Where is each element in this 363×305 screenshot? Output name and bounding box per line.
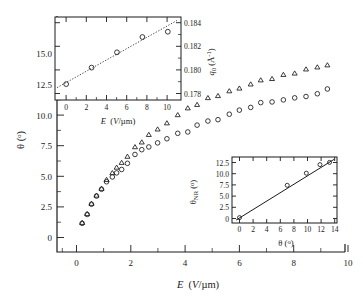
data-point-circle xyxy=(248,105,253,110)
inset-br-ytick-3: 7.5 xyxy=(220,181,230,190)
inset-br-ytick-1: 2.5 xyxy=(220,203,230,212)
data-point-triangle xyxy=(304,67,309,71)
main-ytick-0: 0 xyxy=(48,233,53,243)
data-point-triangle xyxy=(139,140,144,144)
inset-br-xtick-5: 10 xyxy=(304,225,312,234)
data-point-triangle xyxy=(125,154,130,158)
main-xtick-5: 10 xyxy=(344,258,354,268)
data-point-circle xyxy=(165,136,170,141)
data-point-circle xyxy=(114,171,119,176)
data-point-triangle xyxy=(132,145,137,149)
data-point-circle xyxy=(237,108,242,113)
data-point-triangle xyxy=(227,89,232,93)
main-xtick-4: 8 xyxy=(291,258,296,268)
inset-br-xtick-0: 0 xyxy=(238,225,242,234)
data-point-triangle xyxy=(146,132,151,136)
inset-tl-xtick-1: 2 xyxy=(84,103,88,112)
inset-tl-xtick-4: 8 xyxy=(145,103,149,112)
data-point-circle xyxy=(139,147,144,152)
inset-tl-ytick-0: 0.178 xyxy=(184,90,201,99)
main-ytick-1: 2.5 xyxy=(41,202,53,212)
inset-br-ytick-4: 10.0 xyxy=(216,170,229,179)
inset-tl-x-ticklabels: 0 2 4 6 8 10 xyxy=(64,103,171,112)
data-point-circle xyxy=(325,87,330,92)
data-point-triangle xyxy=(114,165,119,169)
main-ytick-2: 5.0 xyxy=(41,172,53,182)
data-point-triangle xyxy=(215,93,220,97)
data-point-triangle xyxy=(270,76,275,80)
inset-br-xtick-4: 8 xyxy=(292,225,296,234)
inset-br-ytick-0: 0 xyxy=(225,215,229,224)
main-y-ticklabels: 0 2.5 5.0 7.5 10.0 12.5 15.0 xyxy=(36,49,52,243)
inset-tl-xaxis-label: E (V/µm) xyxy=(100,116,136,126)
inset-br-xaxis-label: θ (o) xyxy=(278,238,293,249)
inset-tl-xtick-5: 10 xyxy=(163,103,171,112)
data-point-triangle xyxy=(315,65,320,69)
inset-br-yaxis-label: θNR (o) xyxy=(188,180,200,205)
data-point-circle xyxy=(315,91,320,96)
data-point-triangle xyxy=(248,82,253,86)
data-point-triangle xyxy=(195,102,200,106)
inset-top-left: 0 2 4 6 8 10 0.178 xyxy=(55,17,217,126)
inset-tl-frame xyxy=(55,17,181,100)
inset-br-ytick-5: 12.5 xyxy=(216,159,229,168)
main-x-ticks xyxy=(62,245,348,252)
data-point-circle xyxy=(133,152,138,157)
inset-bottom-right: 0 2 4 6 8 10 12 14 xyxy=(188,157,339,248)
inset-tl-xtick-2: 4 xyxy=(105,103,109,112)
inset-tl-xtick-0: 0 xyxy=(64,103,68,112)
inset-tl-xtick-3: 6 xyxy=(125,103,129,112)
data-point-triangle xyxy=(292,71,297,75)
data-point-triangle xyxy=(205,95,210,99)
data-point-circle xyxy=(281,98,286,103)
data-point-circle xyxy=(119,167,124,172)
inset-br-xtick-2: 4 xyxy=(265,225,269,234)
data-point-triangle xyxy=(119,160,124,164)
data-point-circle xyxy=(227,112,232,117)
main-ytick-5: 12.5 xyxy=(36,80,52,90)
inset-br-x-ticklabels: 0 2 4 6 8 10 12 14 xyxy=(238,225,339,234)
data-point-circle xyxy=(258,100,263,105)
data-point-circle xyxy=(175,131,180,136)
data-point-circle xyxy=(216,117,221,122)
main-xtick-3: 6 xyxy=(237,258,242,268)
data-point-circle xyxy=(292,96,297,101)
data-point-circle xyxy=(270,100,275,105)
data-point-triangle xyxy=(325,63,330,67)
main-xtick-1: 2 xyxy=(129,258,134,268)
data-point-circle xyxy=(147,145,152,150)
inset-tl-ytick-2: 0.182 xyxy=(184,42,201,51)
inset-tl-y-ticklabels: 0.178 0.180 0.182 0.184 xyxy=(184,19,201,99)
data-point-circle xyxy=(185,130,190,135)
main-ytick-6: 15.0 xyxy=(36,49,52,59)
inset-tl-ytick-1: 0.180 xyxy=(184,66,201,75)
data-point-triangle xyxy=(155,127,160,131)
data-point-circle xyxy=(195,123,200,128)
data-point-triangle xyxy=(185,106,190,110)
inset-br-xtick-6: 12 xyxy=(317,225,325,234)
figure-container: 0 2.5 5.0 7.5 10.0 12.5 15.0 xyxy=(0,0,363,305)
data-point-triangle xyxy=(164,121,169,125)
data-point-triangle xyxy=(237,86,242,90)
data-point-triangle xyxy=(258,78,263,82)
data-point-circle xyxy=(206,119,211,124)
data-point-circle xyxy=(304,94,309,99)
main-ytick-3: 7.5 xyxy=(41,141,53,151)
main-xtick-0: 0 xyxy=(74,258,79,268)
scientific-figure: 0 2.5 5.0 7.5 10.0 12.5 15.0 xyxy=(0,0,363,305)
inset-br-xtick-1: 2 xyxy=(251,225,255,234)
main-xtick-2: 4 xyxy=(183,258,188,268)
main-xaxis-label: E (V/µm) xyxy=(176,279,220,291)
data-point-circle xyxy=(155,141,160,146)
data-point-circle xyxy=(110,175,115,180)
inset-br-ytick-2: 5.0 xyxy=(220,192,230,201)
inset-br-xtick-3: 6 xyxy=(278,225,282,234)
inset-tl-yaxis-label: q0 (Å-1) xyxy=(205,48,217,75)
main-x-ticklabels: 0 2 4 6 8 10 xyxy=(74,258,353,268)
data-point-circle xyxy=(125,161,130,166)
inset-br-xtick-7: 14 xyxy=(331,225,339,234)
inset-tl-ytick-3: 0.184 xyxy=(184,19,201,28)
inset-br-y-ticklabels: 0 2.5 5.0 7.5 10.0 12.5 xyxy=(216,159,230,224)
data-point-triangle xyxy=(281,72,286,76)
main-yaxis-label: θ (o) xyxy=(15,131,27,149)
